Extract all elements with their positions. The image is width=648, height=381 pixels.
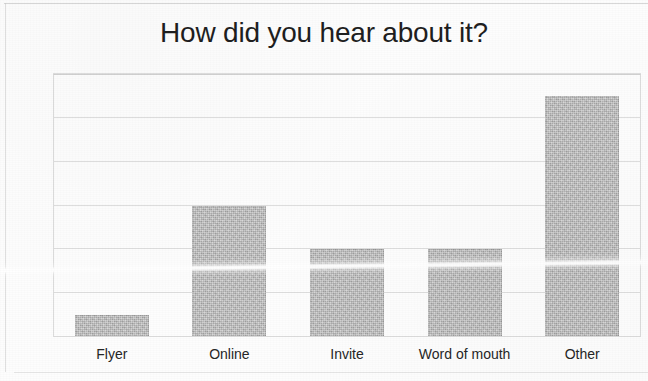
x-axis-tick-label-other: Other (565, 346, 600, 362)
x-axis-tick-label-invite: Invite (330, 346, 363, 362)
bar-word-of-mouth (428, 249, 502, 337)
bar-other (545, 96, 619, 337)
bar-online (192, 206, 266, 338)
scanned-chart-page: How did you hear about it? 024681012 Fly… (0, 0, 648, 381)
gridline-12 (53, 73, 641, 74)
bar-flyer (75, 315, 149, 337)
x-axis-tick-label-online: Online (209, 346, 249, 362)
plot-area (53, 74, 641, 337)
document-edge-bottom (14, 372, 648, 373)
bar-invite (310, 249, 384, 337)
x-axis-tick-label-word-of-mouth: Word of mouth (419, 346, 511, 362)
document-edge-left (5, 3, 6, 372)
document-edge-top (4, 3, 648, 4)
chart-title: How did you hear about it? (0, 17, 648, 49)
x-axis-tick-label-flyer: Flyer (96, 346, 127, 362)
